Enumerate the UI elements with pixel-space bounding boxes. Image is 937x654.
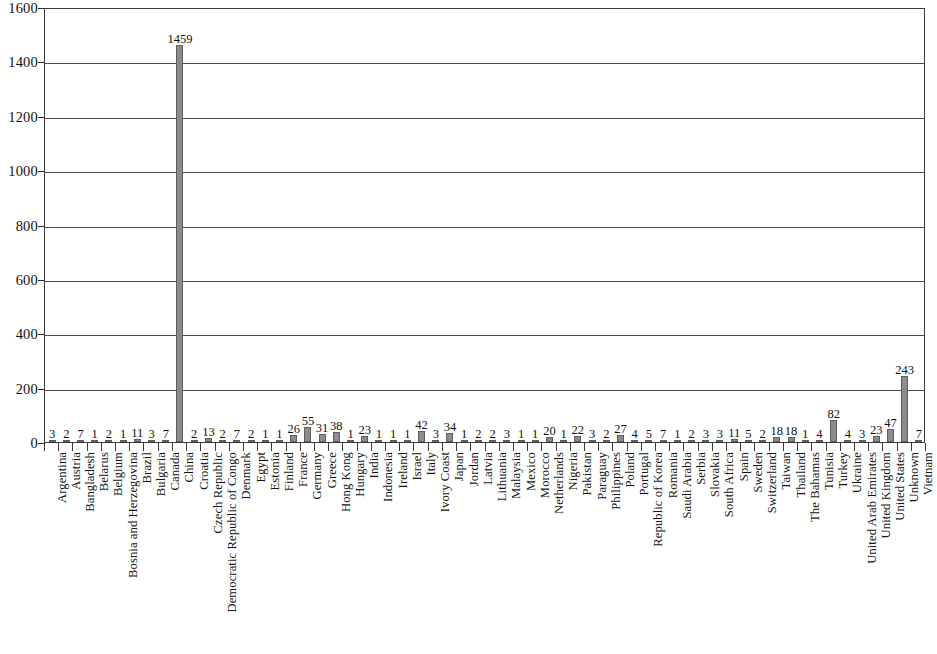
bar[interactable]: [319, 434, 326, 442]
x-axis-category-label: Japan: [453, 452, 466, 481]
x-axis-category-label: Finland: [283, 452, 296, 491]
x-axis-tick-mark: [87, 443, 88, 451]
bar-value-label: 5: [745, 428, 751, 440]
x-axis-tick-mark: [655, 443, 656, 451]
x-axis-labels: ArgentinaAustriaBangladeshBelarusBelgium…: [44, 452, 925, 642]
bar-value-label: 2: [759, 428, 765, 440]
x-axis-tick-mark: [186, 443, 187, 451]
bar-value-label: 34: [444, 421, 457, 433]
bar-value-label: 1: [390, 428, 396, 440]
x-axis-tick-mark: [826, 443, 827, 451]
x-axis-category-label: Bulgaria: [155, 452, 168, 496]
x-axis-tick-mark: [598, 443, 599, 451]
x-axis-tick-mark: [101, 443, 102, 451]
bar[interactable]: [887, 429, 894, 442]
x-axis-category-label: Estonia: [269, 452, 282, 490]
bar[interactable]: [290, 435, 297, 442]
bar[interactable]: [446, 433, 453, 442]
bar-value-label: 42: [415, 419, 428, 431]
bar-value-label: 243: [895, 364, 914, 376]
x-axis-category-label: Canada: [169, 452, 182, 490]
bar-value-label: 2: [248, 428, 254, 440]
bar-value-label: 23: [358, 424, 371, 436]
bar-value-label: 3: [703, 428, 709, 440]
bar-value-label: 3: [148, 428, 154, 440]
bar-value-label: 2: [603, 428, 609, 440]
plot-area: 3271211137145921327211265531381231114233…: [44, 8, 925, 443]
bar[interactable]: [830, 420, 837, 442]
x-axis-tick-mark: [243, 443, 244, 451]
x-axis-category-label: United States: [894, 452, 907, 521]
bar-value-label: 1: [802, 428, 808, 440]
bar-value-label: 2: [63, 428, 69, 440]
x-axis-tick-mark: [882, 443, 883, 451]
x-axis-tick-mark: [413, 443, 414, 451]
bar[interactable]: [304, 427, 311, 442]
bar-value-label: 27: [614, 423, 627, 435]
x-axis-tick-mark: [328, 443, 329, 451]
x-axis-tick-mark: [158, 443, 159, 451]
bar-value-label: 1: [276, 428, 282, 440]
bar-value-label: 31: [316, 422, 329, 434]
bar-value-label: 1: [674, 428, 680, 440]
y-axis-tick-label: 1200: [0, 110, 38, 124]
x-axis-tick-mark: [300, 443, 301, 451]
x-axis-tick-mark: [584, 443, 585, 451]
bar-value-label: 2: [475, 428, 481, 440]
x-axis-tick-mark: [129, 443, 130, 451]
y-axis-tick-label: 1000: [0, 164, 38, 178]
x-axis-category-label: Denmark: [240, 452, 253, 500]
x-axis-category-label: Ukraine: [851, 452, 864, 493]
x-axis-tick-mark: [58, 443, 59, 451]
x-axis-tick-mark: [172, 443, 173, 451]
x-axis-category-label: Morocco: [539, 452, 552, 498]
x-axis-category-label: United Arab Emirates: [866, 452, 879, 564]
x-axis-category-label: Hungary: [354, 452, 367, 497]
x-axis-tick-mark: [357, 443, 358, 451]
x-axis-category-label: Brazil: [141, 452, 154, 483]
x-axis-category-label: Mexico: [525, 452, 538, 491]
x-axis-tick-mark: [541, 443, 542, 451]
bar-value-label: 20: [543, 425, 556, 437]
bar-value-label: 4: [632, 428, 638, 440]
x-axis-tick-mark: [385, 443, 386, 451]
x-axis-category-label: Democratic Republic of Congo: [226, 452, 239, 613]
bar[interactable]: [333, 432, 340, 442]
x-axis-tick-mark: [669, 443, 670, 451]
x-axis-category-label: Pakistan: [581, 452, 594, 495]
x-axis-tick-mark: [811, 443, 812, 451]
y-axis-tick-label: 200: [0, 382, 38, 396]
bar-value-label: 1: [532, 428, 538, 440]
x-axis-category-label: Belgium: [112, 452, 125, 496]
bar[interactable]: [901, 376, 908, 442]
x-axis-category-label: Czech Republic: [212, 452, 225, 533]
x-axis-category-label: Saudi Arabia: [681, 452, 694, 519]
x-axis-category-label: Bangladesh: [84, 452, 97, 512]
x-axis-tick-mark: [556, 443, 557, 451]
bar-value-label: 7: [916, 428, 922, 440]
bar[interactable]: [617, 435, 624, 442]
y-axis-tick-label: 0: [0, 436, 38, 450]
x-axis-category-label: Vietnam: [922, 452, 935, 495]
bar[interactable]: [418, 431, 425, 442]
x-axis-tick-mark: [485, 443, 486, 451]
x-axis-tick-mark: [683, 443, 684, 451]
x-axis-tick-mark: [229, 443, 230, 451]
bar-value-label: 7: [77, 428, 83, 440]
x-axis-tick-mark: [72, 443, 73, 451]
x-axis-tick-mark: [200, 443, 201, 451]
bar[interactable]: [176, 45, 183, 442]
bar-value-label: 1: [347, 428, 353, 440]
bar-value-label: 11: [728, 427, 740, 439]
bar-value-label: 1459: [167, 33, 192, 45]
y-axis-tick-label: 800: [0, 219, 38, 233]
bar-value-label: 26: [287, 423, 300, 435]
bar-value-label: 2: [191, 428, 197, 440]
x-axis-tick-mark: [428, 443, 429, 451]
x-axis-tick-mark: [868, 443, 869, 451]
bar-chart: 02004006008001000120014001600 3271211137…: [0, 0, 937, 654]
bar-value-label: 47: [884, 417, 897, 429]
bar-value-label: 2: [106, 428, 112, 440]
bar-value-label: 2: [688, 428, 694, 440]
y-axis-tick-label: 600: [0, 273, 38, 287]
